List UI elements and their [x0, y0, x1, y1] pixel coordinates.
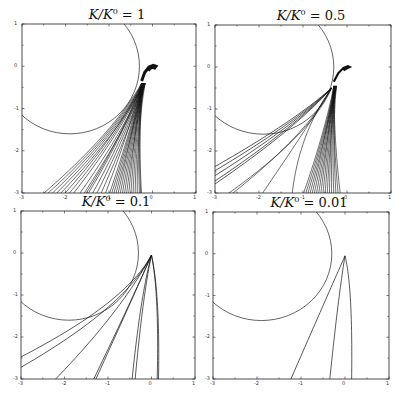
x-tick-label: 0 [342, 380, 345, 386]
plot-panel-3 [0, 0, 404, 399]
x-tick-label: 1 [386, 380, 389, 386]
x-tick-label: -2 [254, 380, 259, 386]
y-tick-label: -3 [205, 375, 210, 381]
y-tick-label: -2 [205, 333, 210, 339]
trajectory-line [330, 256, 345, 381]
x-tick-label: -1 [298, 380, 303, 386]
x-tick-label: -3 [210, 380, 215, 386]
y-tick-label: -1 [205, 292, 210, 298]
circle-curve [191, 187, 332, 321]
y-tick-label: 0 [205, 250, 208, 256]
axes-frame [213, 212, 389, 379]
y-tick-label: 1 [205, 208, 208, 214]
trajectory-line [345, 256, 352, 381]
